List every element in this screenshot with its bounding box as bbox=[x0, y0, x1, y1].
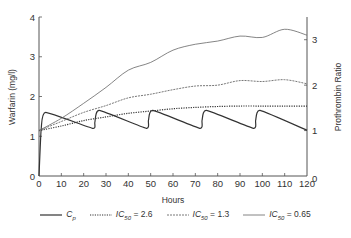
y-tick-label: 2 bbox=[30, 91, 35, 102]
y-tick-label: 3 bbox=[30, 51, 35, 62]
y-axis-title: Warfarin (mg/l) bbox=[7, 69, 17, 125]
x-tick-label: 10 bbox=[56, 178, 67, 189]
legend-label: IC50 = 1.3 bbox=[193, 209, 230, 221]
x-tick-label: 40 bbox=[123, 178, 134, 189]
solid-thick-line-icon bbox=[40, 212, 62, 218]
legend-label: Cp bbox=[66, 209, 75, 221]
y2-tick-label: 2 bbox=[312, 80, 317, 91]
legend-item-cp: Cp bbox=[40, 209, 75, 221]
dotted-line-icon bbox=[90, 212, 112, 218]
y2-tick-label: 0 bbox=[312, 173, 317, 184]
y-tick-label: 0 bbox=[30, 171, 35, 182]
series-line-ic50-0-65 bbox=[39, 29, 307, 130]
dashed-line-icon bbox=[167, 212, 189, 218]
y-tick-label: 1 bbox=[30, 131, 35, 142]
x-tick-label: 0 bbox=[36, 178, 41, 189]
legend-item-ic50-1-3: IC50 = 1.3 bbox=[167, 209, 230, 221]
series-group bbox=[39, 29, 307, 176]
x-axis-title: Hours bbox=[162, 195, 185, 205]
legend: Cp IC50 = 2.6 IC50 = 1.3 IC50 = 0.65 bbox=[0, 209, 351, 221]
x-tick-label: 110 bbox=[277, 178, 292, 189]
legend-label: IC50 = 2.6 bbox=[116, 209, 153, 221]
x-tick-label: 60 bbox=[168, 178, 179, 189]
y2-axis-title: Prothrombin Ratio bbox=[333, 62, 343, 131]
y2-tick-label: 3 bbox=[312, 34, 317, 45]
series-line-ic50-1-3 bbox=[39, 80, 307, 131]
legend-item-ic50-0-65: IC50 = 0.65 bbox=[243, 209, 310, 221]
solid-thin-line-icon bbox=[243, 212, 265, 218]
chart-canvas: 0102030405060708090100110120012340123 Ho… bbox=[0, 0, 351, 210]
y2-tick-label: 1 bbox=[312, 125, 317, 136]
x-tick-label: 90 bbox=[235, 178, 246, 189]
x-tick-label: 30 bbox=[101, 178, 112, 189]
series-line-cp bbox=[39, 110, 307, 176]
x-tick-label: 80 bbox=[212, 178, 223, 189]
legend-label: IC50 = 0.65 bbox=[269, 209, 310, 221]
x-tick-label: 20 bbox=[78, 178, 89, 189]
x-tick-label: 100 bbox=[254, 178, 270, 189]
legend-item-ic50-2-6: IC50 = 2.6 bbox=[90, 209, 153, 221]
y-tick-label: 4 bbox=[30, 12, 35, 23]
axes: 0102030405060708090100110120012340123 bbox=[30, 12, 318, 190]
x-tick-label: 50 bbox=[145, 178, 156, 189]
x-tick-label: 70 bbox=[190, 178, 201, 189]
